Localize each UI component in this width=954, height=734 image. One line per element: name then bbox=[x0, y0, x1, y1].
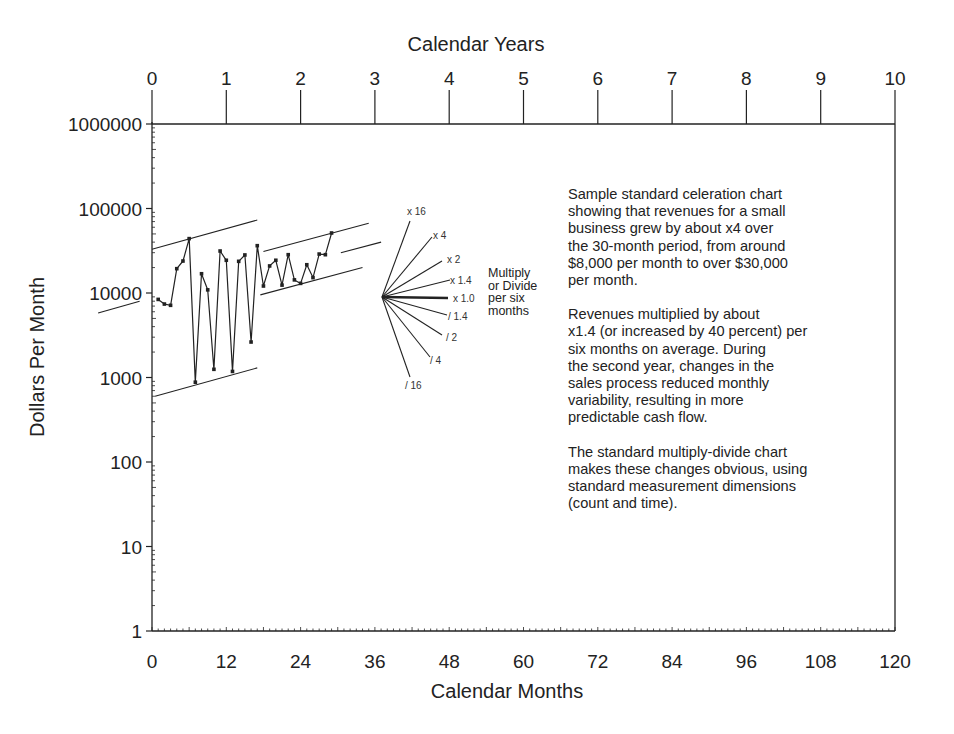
trend-line-upper-bounce-year1 bbox=[152, 220, 257, 249]
celeration-fan: x 16x 4x 2x 1.4x 1.0/ 1.4/ 2/ 4/ 16Multi… bbox=[382, 206, 537, 391]
data-point bbox=[212, 368, 216, 372]
fan-ray-label: x 1.4 bbox=[450, 275, 472, 286]
data-point bbox=[218, 249, 222, 253]
data-point bbox=[156, 298, 160, 302]
fan-ray bbox=[382, 297, 410, 377]
fan-ray-label: / 4 bbox=[430, 355, 442, 366]
trend-line-celeration-projection bbox=[341, 242, 381, 253]
x-tick-label: 84 bbox=[662, 651, 684, 672]
fan-ray bbox=[382, 261, 442, 297]
fan-ray bbox=[382, 221, 410, 297]
fan-ray-label: / 2 bbox=[446, 332, 458, 343]
trend-line-lower-bounce-year1 bbox=[155, 368, 257, 396]
x-tick-label: 36 bbox=[364, 651, 385, 672]
y-tick-label: 1000 bbox=[100, 368, 142, 389]
x2-axis-title: Calendar Years bbox=[408, 33, 545, 55]
fan-ray bbox=[382, 297, 430, 357]
data-series bbox=[156, 231, 333, 384]
y-tick-label: 10 bbox=[121, 537, 142, 558]
year-tick-label: 4 bbox=[444, 68, 455, 89]
data-point bbox=[200, 272, 204, 276]
fan-ray-label: x 2 bbox=[447, 254, 461, 265]
year-tick-label: 6 bbox=[593, 68, 604, 89]
data-point bbox=[169, 304, 173, 308]
data-point bbox=[330, 231, 334, 235]
x-tick-label: 72 bbox=[587, 651, 608, 672]
fan-ray-label: x 4 bbox=[433, 230, 447, 241]
year-tick-label: 3 bbox=[370, 68, 381, 89]
fan-ray bbox=[382, 237, 432, 297]
data-point bbox=[262, 284, 266, 288]
x-tick-label: 24 bbox=[290, 651, 312, 672]
data-point bbox=[299, 282, 303, 286]
fan-ray-label: / 1.4 bbox=[448, 311, 468, 322]
fan-ray bbox=[382, 280, 450, 297]
x-tick-label: 0 bbox=[147, 651, 158, 672]
fan-ray bbox=[382, 297, 447, 315]
data-point bbox=[237, 260, 241, 264]
fan-ray bbox=[382, 297, 442, 335]
data-point bbox=[317, 252, 321, 256]
data-point bbox=[181, 259, 185, 263]
y-axis-title: Dollars Per Month bbox=[26, 277, 48, 437]
data-point bbox=[286, 253, 290, 257]
fan-ray-label: x 1.0 bbox=[453, 293, 475, 304]
data-point bbox=[255, 244, 259, 248]
fan-ray-label: x 16 bbox=[407, 206, 426, 217]
data-point bbox=[268, 264, 272, 268]
y-axis: 1101001000100001000001000000 bbox=[68, 114, 156, 642]
year-tick-label: 8 bbox=[741, 68, 752, 89]
x-tick-label: 12 bbox=[216, 651, 237, 672]
annotation-paragraph-3: The standard multiply-divide chart makes… bbox=[568, 444, 898, 513]
year-tick-label: 1 bbox=[221, 68, 232, 89]
data-point bbox=[324, 253, 328, 257]
data-point bbox=[187, 237, 191, 241]
year-tick-label: 10 bbox=[884, 68, 905, 89]
x-tick-label: 108 bbox=[805, 651, 837, 672]
x-axis: 01224364860728496108120 bbox=[147, 627, 911, 672]
data-point bbox=[231, 370, 235, 374]
trend-line-lower-bounce-year2 bbox=[260, 268, 362, 295]
x-tick-label: 48 bbox=[439, 651, 460, 672]
x-tick-label: 120 bbox=[879, 651, 911, 672]
annotation-paragraph-1: Sample standard celeration chart showing… bbox=[568, 186, 898, 289]
data-point bbox=[206, 288, 210, 292]
data-point bbox=[194, 380, 198, 384]
data-point bbox=[311, 276, 315, 280]
year-tick-label: 0 bbox=[147, 68, 158, 89]
year-tick-label: 9 bbox=[815, 68, 826, 89]
data-point bbox=[305, 263, 309, 267]
y-tick-label: 10000 bbox=[89, 283, 142, 304]
data-point bbox=[249, 340, 253, 344]
top-year-axis: 012345678910 bbox=[147, 68, 906, 124]
year-tick-label: 7 bbox=[667, 68, 678, 89]
y-tick-label: 100 bbox=[110, 452, 142, 473]
trend-line-upper-bounce-year2 bbox=[263, 223, 368, 251]
data-point bbox=[163, 302, 167, 306]
y-tick-label: 1000000 bbox=[68, 114, 142, 135]
annotation-panel: Sample standard celeration chart showing… bbox=[568, 186, 898, 529]
year-tick-label: 5 bbox=[518, 68, 529, 89]
data-point bbox=[225, 258, 229, 262]
x-tick-label: 60 bbox=[513, 651, 534, 672]
x-tick-label: 96 bbox=[736, 651, 757, 672]
year-tick-label: 2 bbox=[295, 68, 306, 89]
data-point bbox=[274, 258, 278, 262]
fan-ray bbox=[382, 297, 448, 298]
x-axis-title: Calendar Months bbox=[431, 680, 583, 702]
y-tick-label: 100000 bbox=[79, 199, 142, 220]
data-point bbox=[243, 253, 247, 257]
data-point bbox=[175, 267, 179, 271]
data-point bbox=[293, 278, 297, 282]
annotation-paragraph-2: Revenues multiplied by about x1.4 (or in… bbox=[568, 306, 898, 426]
fan-caption-line: months bbox=[488, 304, 529, 318]
y-tick-label: 1 bbox=[131, 621, 142, 642]
fan-ray-label: / 16 bbox=[405, 380, 422, 391]
data-point bbox=[280, 283, 284, 287]
